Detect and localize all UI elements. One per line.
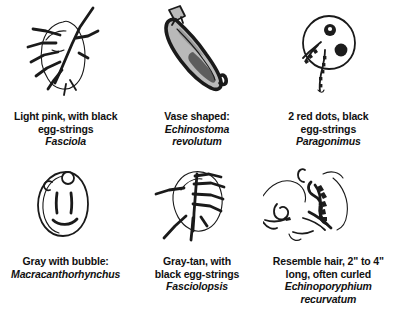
caption-line: Resemble hair, 2" to 4"	[263, 255, 394, 268]
species-name: Fasciolopsis	[131, 280, 262, 293]
species-name: Paragonimus	[263, 135, 394, 148]
species-name-line: Echinostoma	[131, 123, 262, 136]
caption-line: Light pink, with black	[0, 110, 131, 123]
caption-line: Gray-tan, with	[131, 255, 262, 268]
caption-paragonimus: 2 red dots, black egg-strings Paragonimu…	[263, 100, 394, 148]
caption-fasciolopsis: Gray-tan, with black egg-strings Fasciol…	[131, 252, 262, 293]
echinostoma-drawing	[131, 0, 262, 100]
echinoporyphium-drawing	[263, 160, 394, 252]
cell-echinoporyphium: Resemble hair, 2" to 4" long, often curl…	[263, 160, 394, 305]
species-name: Fasciola	[0, 135, 131, 148]
cell-paragonimus: 2 red dots, black egg-strings Paragonimu…	[263, 0, 394, 148]
caption-line: long, often curled	[263, 268, 394, 281]
caption-fasciola: Light pink, with black egg-strings Fasci…	[0, 100, 131, 148]
macracanthorhynchus-drawing	[0, 160, 131, 252]
cell-macracanthorhynchus: Gray with bubble: Macracanthorhynchus	[0, 160, 131, 280]
species-name: Macracanthorhynchus	[0, 268, 131, 281]
caption-line: egg-strings	[263, 123, 394, 136]
bottom-row: Gray with bubble: Macracanthorhynchus	[0, 160, 394, 323]
caption-line: black egg-strings	[131, 268, 262, 281]
species-name-line: revolutum	[131, 135, 262, 148]
top-row: Light pink, with black egg-strings Fasci…	[0, 0, 394, 160]
species-name-line: Echinoporyphium	[263, 280, 394, 293]
cell-fasciola: Light pink, with black egg-strings Fasci…	[0, 0, 131, 148]
caption-echinoporyphium: Resemble hair, 2" to 4" long, often curl…	[263, 252, 394, 305]
caption-line: Vase shaped:	[131, 110, 262, 123]
caption-echinostoma: Vase shaped: Echinostoma revolutum	[131, 100, 262, 148]
paragonimus-drawing	[263, 0, 394, 100]
fasciola-drawing	[0, 0, 131, 100]
species-name-line: recurvatum	[263, 293, 394, 306]
cell-fasciolopsis: Gray-tan, with black egg-strings Fasciol…	[131, 160, 262, 293]
chart-sheet: Light pink, with black egg-strings Fasci…	[0, 0, 394, 323]
caption-line: Gray with bubble:	[0, 255, 131, 268]
cell-echinostoma: Vase shaped: Echinostoma revolutum	[131, 0, 262, 148]
caption-line: 2 red dots, black	[263, 110, 394, 123]
caption-macracanthorhynchus: Gray with bubble: Macracanthorhynchus	[0, 252, 131, 280]
fasciolopsis-drawing	[131, 160, 262, 252]
caption-line: egg-strings	[0, 123, 131, 136]
